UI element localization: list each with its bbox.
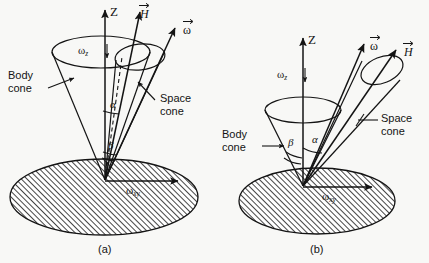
caption-a: (a) [98,243,111,255]
diagram-svg [0,0,429,263]
h-vector-label-b: H [403,40,412,55]
omega-vector-b [303,44,364,186]
space-cone-label-a: Space cone [160,92,191,117]
z-axis-label-a: Z [110,4,118,20]
angle-alpha-label-b: α [312,133,318,145]
z-axis-label-b: Z [308,32,316,48]
body-cone-label-b: Body cone [222,128,247,153]
omega-vector-label-b: ω [370,34,378,49]
angle-alpha-label-a: α [110,98,116,110]
space-cone-label-b: Space cone [381,112,412,137]
body-cone-leader-a [48,78,74,88]
ground-disk-a [10,159,198,235]
ground-disk-b [239,168,395,234]
omega-z-label-a: ωz [78,44,88,56]
caption-b: (b) [310,243,323,255]
angle-beta-label-b: β [288,136,293,148]
h-vector-label-a: H [139,2,148,17]
omega-z-label-b: ωz [277,68,287,80]
omega-xy-label-a: ωxy [126,184,140,196]
panel-a-graphics [10,10,198,235]
body-cone-label-a: Body cone [8,69,33,94]
figure-container: Z ωz ωxy H ω Body cone Space cone α β (a… [0,0,429,263]
angle-beta-label-a: β [108,139,113,151]
omega-vector-label-a: ω [183,18,191,33]
omega-xy-label-b: ωxy [322,190,336,202]
angle-arc-beta2-b [284,158,301,164]
space-cone-leader-a [138,82,155,100]
